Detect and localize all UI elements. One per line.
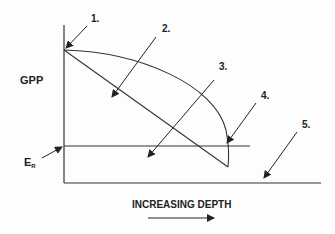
callout-5: 5.	[302, 120, 310, 130]
arrow-2-icon	[112, 37, 156, 97]
arrow-er-icon	[42, 147, 62, 158]
er-label: ER	[24, 157, 36, 169]
arrow-5-icon	[264, 132, 297, 178]
callout-1: 1.	[91, 14, 99, 24]
linear-decline-line	[64, 50, 228, 167]
y-axis-label: GPP	[20, 75, 43, 86]
arrow-4-icon	[227, 103, 256, 143]
callout-3: 3.	[219, 62, 227, 72]
x-axis-label: INCREASING DEPTH	[132, 200, 231, 210]
diagram-canvas: 1. 2. 3. 4. 5. GPP ER INCREASING DEPTH	[0, 0, 335, 234]
er-label-sub: R	[31, 163, 35, 169]
callout-4: 4.	[261, 91, 269, 101]
arrow-1-icon	[66, 26, 87, 48]
callout-2: 2.	[162, 24, 170, 34]
